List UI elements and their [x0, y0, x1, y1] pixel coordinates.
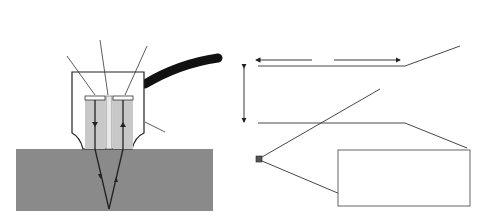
- transmitting-crystal-plate: [85, 96, 105, 100]
- single-element: [256, 156, 262, 162]
- phased-array-diagram: [0, 0, 483, 224]
- group-beam-outline: [258, 46, 460, 66]
- case-leader: [145, 122, 165, 132]
- test-block: [16, 149, 213, 211]
- probe-cable: [145, 58, 218, 84]
- acoustic-barrier: [106, 96, 112, 149]
- formula-box: [338, 150, 470, 206]
- single-beam-lower: [262, 161, 340, 194]
- group-beam-outline-lower: [258, 123, 467, 148]
- receiving-crystal-plate: [113, 96, 133, 100]
